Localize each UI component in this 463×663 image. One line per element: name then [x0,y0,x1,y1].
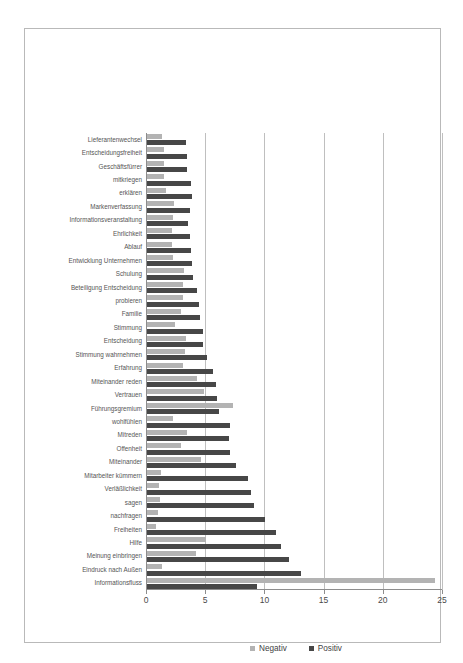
bar-negativ [147,363,183,368]
category-label: Entwicklung Unternehmen [68,257,142,264]
legend-swatch-icon [309,646,314,651]
bar-negativ [147,228,172,233]
bar-negativ [147,295,183,300]
bar-positiv [147,194,192,199]
category-label: Stimmung wahrnehmen [76,351,143,358]
category-label: sagen [125,499,142,506]
bar-negativ [147,443,181,448]
bar-negativ [147,282,183,287]
x-axis-line [146,589,442,590]
bar-positiv [147,181,191,186]
bar-negativ [147,524,156,529]
tick-25 [442,590,443,594]
x-tick-label: 10 [260,595,269,605]
bar-positiv [147,329,203,334]
bar-negativ [147,322,175,327]
chart-legend: NegativPositiv [146,641,446,655]
x-tick-label: 5 [203,595,208,605]
category-label: Meinung einbringen [87,552,142,559]
legend-swatch-icon [250,646,255,651]
bar-positiv [147,396,217,401]
bar-negativ [147,242,172,247]
category-label: Erfahrung [114,364,142,371]
tick-5 [205,590,206,594]
x-tick-label: 20 [378,595,387,605]
legend-item[interactable]: Positiv [309,644,342,653]
bar-positiv [147,342,203,347]
bar-negativ [147,309,181,314]
bar-negativ [147,430,187,435]
tick-0 [146,590,147,594]
bar-negativ [147,497,160,502]
bar-positiv [147,315,200,320]
bar-negativ [147,201,174,206]
bar-positiv [147,436,229,441]
tick-10 [264,590,265,594]
bar-positiv [147,382,216,387]
category-label: Informationsveranstaltung [70,216,142,223]
category-label: wohlfühlen [112,418,142,425]
category-label: Führungsgremium [91,405,142,412]
bar-negativ [147,376,197,381]
bar-positiv [147,490,251,495]
bar-negativ [147,268,184,273]
category-label: Eindruck nach Außen [82,566,142,573]
x-tick-label: 15 [319,595,328,605]
bar-positiv [147,234,190,239]
bar-positiv [147,503,254,508]
chart-page: LieferantenwechselEntscheidungsfreiheitG… [0,0,463,663]
bar-negativ [147,416,173,421]
bar-negativ [147,215,173,220]
bar-positiv [147,571,301,576]
bar-positiv [147,221,188,226]
bar-positiv [147,167,187,172]
bar-positiv [147,288,197,293]
legend-label: Negativ [259,644,287,653]
bar-negativ [147,470,161,475]
category-label: Beteiligung Entscheidung [71,284,142,291]
x-axis-tick-labels: 0510152025 [146,595,446,609]
category-label: Lieferantenwechsel [88,136,142,143]
bar-positiv [147,476,248,481]
bar-negativ [147,457,201,462]
x-tick-label: 25 [437,595,446,605]
bar-negativ [147,564,162,569]
category-label: Hilfe [129,539,142,546]
legend-label: Positiv [318,644,342,653]
category-label: Vertrauen [115,391,142,398]
plot-area [146,133,442,590]
bar-positiv [147,463,236,468]
bar-negativ [147,147,164,152]
bar-negativ [147,551,196,556]
bar-positiv [147,355,207,360]
bar-negativ [147,403,233,408]
bar-negativ [147,510,158,515]
bar-negativ [147,389,204,394]
bar-negativ [147,578,435,583]
category-label: nachfragen [110,512,142,519]
category-label: Mitreden [118,431,143,438]
bar-positiv [147,261,192,266]
category-label: Ehrlichkeit [113,230,142,237]
bar-negativ [147,483,159,488]
bar-group [147,577,443,593]
category-label: Markenverfassung [90,203,142,210]
category-label: Entscheidung [104,337,142,344]
legend-item[interactable]: Negativ [250,644,287,653]
bar-positiv [147,154,187,159]
bar-positiv [147,369,213,374]
category-label: Informationsfluss [94,579,142,586]
category-label: probieren [115,297,142,304]
bar-positiv [147,248,191,253]
bar-positiv [147,423,230,428]
bar-positiv [147,140,186,145]
bar-positiv [147,450,230,455]
category-label: Mitarbeiter kümmern [84,472,142,479]
category-label: erklären [119,189,142,196]
category-label: Familie [122,310,142,317]
category-label: Miteinander reden [91,378,142,385]
category-label: Geschäftsfürrer [99,163,142,170]
bar-negativ [147,161,164,166]
bar-negativ [147,174,164,179]
tick-20 [383,590,384,594]
